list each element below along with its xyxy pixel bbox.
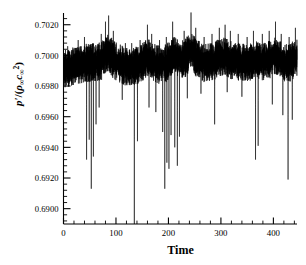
y-tick-label: 0.6980 <box>35 81 59 91</box>
x-tick-label: 400 <box>267 228 281 238</box>
x-axis-label: Time <box>63 243 298 258</box>
x-tick-label: 200 <box>162 228 176 238</box>
y-tick-label: 0.7020 <box>35 20 59 30</box>
y-tick-label: 0.6920 <box>35 173 59 183</box>
x-tick-label: 0 <box>61 228 66 238</box>
data-series-line <box>64 12 298 224</box>
chart-figure: 0.69000.69200.69400.69600.69800.70000.70… <box>0 0 306 265</box>
x-tick-label: 300 <box>214 228 228 238</box>
y-tick-label: 0.7000 <box>35 51 59 61</box>
x-tick-label: 100 <box>109 228 123 238</box>
y-axis-label-text: p′/(ρ∞c∞2) <box>12 62 24 106</box>
y-tick-label: 0.6940 <box>35 143 59 153</box>
y-axis-label: p′/(ρ∞c∞2) <box>12 36 32 132</box>
y-tick-label: 0.6900 <box>35 204 59 214</box>
chart-plot-area: 0.69000.69200.69400.69600.69800.70000.70… <box>0 0 306 265</box>
y-tick-label: 0.6960 <box>35 112 59 122</box>
